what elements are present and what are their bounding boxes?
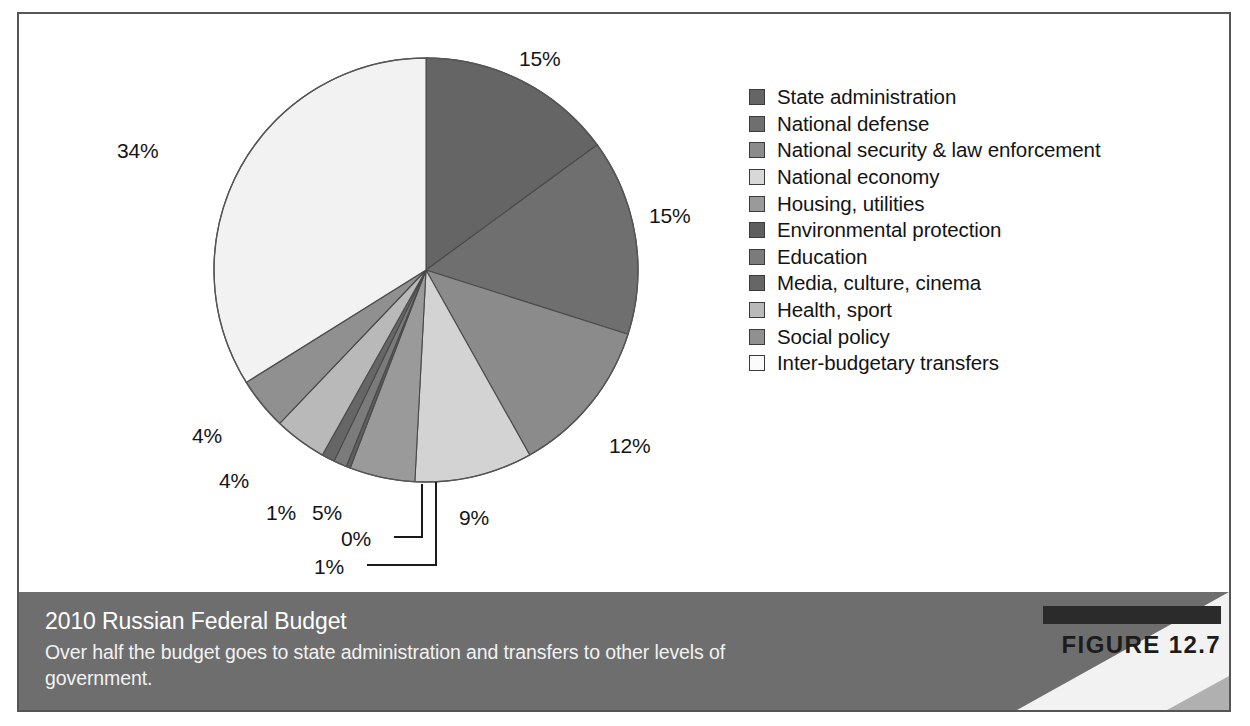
slice-label-national-economy: 9% <box>459 506 489 530</box>
slice-label-national-security: 12% <box>609 434 650 458</box>
footer-text-block: 2010 Russian Federal Budget Over half th… <box>45 606 765 691</box>
legend-item[interactable]: Social policy <box>749 323 1209 350</box>
page-bottom-strip <box>0 713 1250 726</box>
legend-item-label: Inter-budgetary transfers <box>777 351 999 375</box>
legend-item[interactable]: Inter-budgetary transfers <box>749 350 1209 377</box>
figure-footer: 2010 Russian Federal Budget Over half th… <box>19 592 1229 710</box>
pie-slices-group <box>214 58 638 482</box>
legend-item-label: Environmental protection <box>777 218 1001 242</box>
legend-swatch-icon <box>749 302 765 318</box>
figure-number-label: FIGURE 12.7 <box>1025 631 1221 659</box>
slice-label-social-policy: 4% <box>192 424 222 448</box>
legend-item[interactable]: National defense <box>749 111 1209 138</box>
legend-item[interactable]: Education <box>749 244 1209 271</box>
legend-item-label: Health, sport <box>777 298 892 322</box>
legend-swatch-icon <box>749 275 765 291</box>
legend-swatch-icon <box>749 116 765 132</box>
legend-swatch-icon <box>749 89 765 105</box>
slice-label-education: 1% <box>314 555 344 579</box>
figure-number-badge: FIGURE 12.7 <box>1025 606 1221 659</box>
slice-label-state-administration: 15% <box>519 47 560 71</box>
legend-item[interactable]: Environmental protection <box>749 217 1209 244</box>
leader-line-1-percent <box>367 482 436 565</box>
figure-badge-bar <box>1043 606 1221 624</box>
legend-item[interactable]: Media, culture, cinema <box>749 270 1209 297</box>
legend-swatch-icon <box>749 142 765 158</box>
legend-item[interactable]: Housing, utilities <box>749 190 1209 217</box>
chart-legend: State administrationNational defenseNati… <box>749 84 1209 377</box>
legend-swatch-icon <box>749 222 765 238</box>
figure-caption: Over half the budget goes to state admin… <box>45 639 765 691</box>
slice-label-environmental-protection: 0% <box>341 527 371 551</box>
leader-line-0-percent <box>394 484 422 537</box>
legend-item[interactable]: National economy <box>749 164 1209 191</box>
legend-item[interactable]: State administration <box>749 84 1209 111</box>
legend-item[interactable]: Health, sport <box>749 297 1209 324</box>
legend-swatch-icon <box>749 196 765 212</box>
legend-item-label: Social policy <box>777 325 890 349</box>
legend-swatch-icon <box>749 355 765 371</box>
figure-frame: 15% 15% 12% 9% 5% 0% 1% 1% 4% 4% 34% Sta… <box>17 12 1231 712</box>
leader-lines-group <box>367 482 436 565</box>
legend-swatch-icon <box>749 329 765 345</box>
legend-item-label: National economy <box>777 165 940 189</box>
slice-label-health-sport: 4% <box>219 469 249 493</box>
figure-root: 15% 15% 12% 9% 5% 0% 1% 1% 4% 4% 34% Sta… <box>0 0 1250 726</box>
legend-item-label: Education <box>777 245 867 269</box>
legend-item-label: National security & law enforcement <box>777 138 1101 162</box>
legend-swatch-icon <box>749 169 765 185</box>
figure-title: 2010 Russian Federal Budget <box>45 606 765 636</box>
slice-label-national-defense: 15% <box>649 204 690 228</box>
legend-item-label: Media, culture, cinema <box>777 271 981 295</box>
slice-label-media-culture-cinema: 1% <box>266 501 296 525</box>
legend-item-label: State administration <box>777 85 956 109</box>
legend-item-label: Housing, utilities <box>777 192 924 216</box>
legend-item-label: National defense <box>777 112 929 136</box>
slice-label-housing-utilities: 5% <box>312 501 342 525</box>
slice-label-inter-budgetary-transfers: 34% <box>117 139 158 163</box>
legend-swatch-icon <box>749 249 765 265</box>
legend-item[interactable]: National security & law enforcement <box>749 137 1209 164</box>
